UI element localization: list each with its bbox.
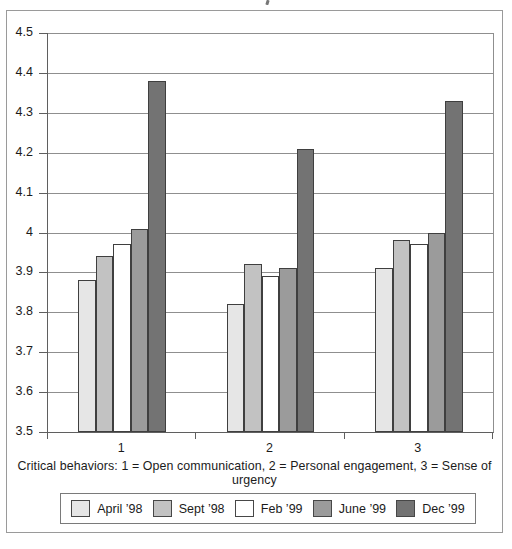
legend-entry: Sept ’98 [153,500,225,517]
x-axis-tick [344,432,345,439]
cropped-title-fragment [265,0,269,5]
y-axis-label: 3.9 [0,264,33,279]
y-axis-tick [39,113,47,114]
legend-label: Dec ’99 [422,502,464,516]
y-axis-tick [39,153,47,154]
x-axis-category-label: 3 [388,441,448,456]
y-axis-label: 4 [0,225,33,240]
legend-swatch [71,500,90,517]
legend-swatch [396,500,415,517]
bar [445,101,463,432]
legend-label: Feb ’99 [261,502,303,516]
legend-entry: April ’98 [71,500,142,517]
legend-entry: Feb ’99 [235,500,303,517]
chart-page: 4.54.44.34.24.143.93.83.73.63.5123 Criti… [0,0,512,549]
y-axis-label: 4.2 [0,145,33,160]
legend-swatch [235,500,254,517]
gridline [48,73,493,74]
x-axis-tick [492,432,493,439]
y-axis-label: 4.5 [0,25,33,40]
y-axis-label: 4.4 [0,65,33,80]
gridline [48,153,493,154]
y-axis-label: 3.6 [0,384,33,399]
bar [148,81,166,432]
y-axis-tick [39,73,47,74]
y-axis-label: 4.1 [0,185,33,200]
bar [375,268,393,432]
bar [262,276,280,432]
legend-label: Sept ’98 [179,502,225,516]
legend-swatch [313,500,332,517]
legend-swatch [153,500,172,517]
legend-entry: Dec ’99 [396,500,464,517]
gridline [48,193,493,194]
x-axis-tick [195,432,196,439]
y-axis-label: 4.3 [0,105,33,120]
legend-label: June ’99 [339,502,386,516]
y-axis-tick [39,233,47,234]
y-axis-tick [39,432,47,433]
x-axis-category-label: 1 [91,441,151,456]
y-axis-tick [39,33,47,34]
bar [96,256,114,432]
legend-entry: June ’99 [313,500,386,517]
y-axis-label: 3.7 [0,344,33,359]
bar [131,229,149,432]
y-axis-tick [39,352,47,353]
gridline [48,233,493,234]
y-axis-label: 3.8 [0,304,33,319]
y-axis-label: 3.5 [0,424,33,439]
bar [227,304,245,432]
x-axis-tick [47,432,48,439]
legend-label: April ’98 [97,502,142,516]
x-axis-category-label: 2 [240,441,300,456]
legend: April ’98Sept ’98Feb ’99June ’99Dec ’99 [60,493,476,524]
bar [113,244,131,432]
chart-frame: 4.54.44.34.24.143.93.83.73.63.5123 Criti… [6,10,503,533]
y-axis-tick [39,392,47,393]
bar [279,268,297,432]
gridline [48,33,493,34]
plot-area [47,33,494,433]
bar [428,233,446,433]
bar [297,149,315,432]
bar [410,244,428,432]
y-axis-tick [39,272,47,273]
y-axis-tick [39,193,47,194]
bar [78,280,96,432]
bar [244,264,262,432]
gridline [48,113,493,114]
y-axis-tick [39,312,47,313]
bar [393,240,411,432]
chart-caption: Critical behaviors: 1 = Open communicati… [7,459,502,487]
